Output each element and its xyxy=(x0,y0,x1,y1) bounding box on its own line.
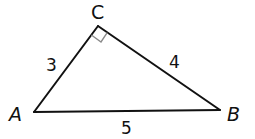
vertex-label-c: C xyxy=(91,1,104,23)
triangle-diagram: C A B 3 4 5 xyxy=(0,0,255,139)
side-label-ab: 5 xyxy=(121,118,132,138)
side-cb xyxy=(98,26,220,110)
side-ab xyxy=(34,110,220,112)
triangle-sides xyxy=(34,26,220,112)
vertex-label-b: B xyxy=(227,103,240,125)
right-angle-mark xyxy=(91,33,107,42)
side-label-ac: 3 xyxy=(46,55,57,75)
vertex-label-a: A xyxy=(7,103,22,125)
side-ac xyxy=(34,26,98,112)
side-label-cb: 4 xyxy=(169,52,180,72)
